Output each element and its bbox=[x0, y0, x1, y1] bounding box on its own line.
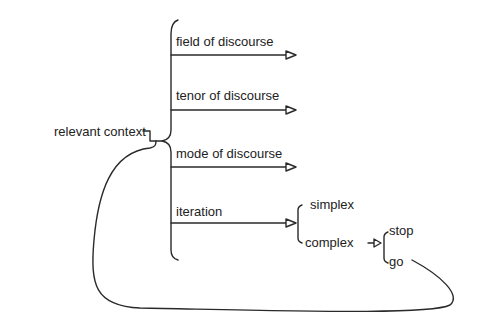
option-label-stop: stop bbox=[389, 224, 414, 237]
iteration-bracket bbox=[298, 205, 302, 243]
branch-label-iteration: iteration bbox=[176, 205, 222, 218]
system-network-diagram: relevant context field of discourse teno… bbox=[0, 0, 479, 329]
complex-bracket bbox=[384, 232, 388, 263]
field-arrowhead-icon bbox=[286, 51, 296, 59]
complex-arrowhead-icon bbox=[374, 239, 381, 247]
branch-label-tenor: tenor of discourse bbox=[176, 89, 279, 102]
root-label: relevant context bbox=[54, 125, 146, 138]
tenor-arrowhead-icon bbox=[286, 106, 296, 114]
branch-label-field: field of discourse bbox=[176, 35, 274, 48]
option-label-go: go bbox=[389, 255, 403, 268]
iteration-arrowhead-icon bbox=[286, 219, 296, 227]
branch-label-mode: mode of discourse bbox=[176, 147, 282, 160]
option-label-simplex: simplex bbox=[310, 198, 354, 211]
mode-arrowhead-icon bbox=[286, 163, 296, 171]
option-label-complex: complex bbox=[305, 236, 353, 249]
main-brace bbox=[162, 20, 178, 260]
diagram-lines bbox=[0, 0, 479, 329]
